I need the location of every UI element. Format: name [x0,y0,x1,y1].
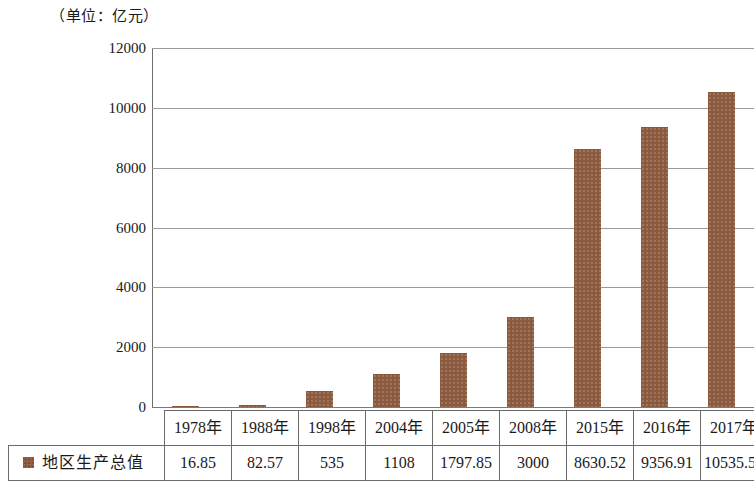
chart-page: （单位：亿元） 020004000600080001000012000 1978… [0,0,754,482]
y-axis-tick-label: 12000 [60,41,146,56]
table-row: 1978年 [165,411,232,446]
y-axis-tick-label: 2000 [60,340,146,355]
table-row: 2008年 [500,411,567,446]
table-row-years: 1978年 1988年 1998年 2004年 2005年 2008年 2015… [9,411,754,446]
bar-2008年 [507,317,534,407]
y-axis-tick-label: 6000 [60,220,146,235]
bar-series-layer [152,48,754,407]
bar-2015年 [574,149,601,407]
legend-cell: 地区生产总值 [9,446,165,481]
y-axis-tick-label: 8000 [60,160,146,175]
table-corner-spacer [9,411,165,446]
bar-1998年 [306,391,333,407]
table-row: 3000 [500,446,567,481]
table-row: 16.85 [165,446,232,481]
table-row: 2015年 [567,411,634,446]
bar-1978年 [172,406,199,407]
table-row: 1108 [366,446,433,481]
y-axis-tick-label: 4000 [60,280,146,295]
table-row: 2017年 [701,411,754,446]
bar-2016年 [641,127,668,407]
data-table: 1978年 1988年 1998年 2004年 2005年 2008年 2015… [8,410,754,481]
table-row: 8630.52 [567,446,634,481]
table-row-values: 地区生产总值 16.85 82.57 535 1108 1797.85 3000… [9,446,754,481]
legend-swatch-icon [23,457,34,468]
table-row: 1988年 [232,411,299,446]
table-row: 535 [299,446,366,481]
gridline [152,407,754,408]
unit-caption: （单位：亿元） [50,4,159,25]
bar-2005年 [440,353,467,407]
table-row: 9356.91 [634,446,701,481]
table-row: 2004年 [366,411,433,446]
table-row: 10535.51 [701,446,754,481]
table-row: 2005年 [433,411,500,446]
bar-2004年 [373,374,400,407]
table-row: 1998年 [299,411,366,446]
bar-2017年 [708,92,735,407]
table-row: 2016年 [634,411,701,446]
y-axis-tick-label: 10000 [60,100,146,115]
bar-1988年 [239,405,266,407]
legend-label: 地区生产总值 [42,455,144,472]
table-row: 1797.85 [433,446,500,481]
table-row: 82.57 [232,446,299,481]
y-axis-ticks: 020004000600080001000012000 [58,48,146,407]
